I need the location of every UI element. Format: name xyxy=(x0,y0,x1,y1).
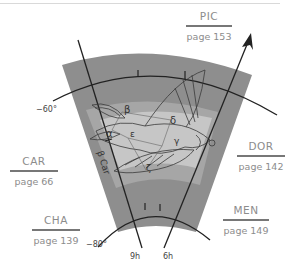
label-men-abbr: MEN xyxy=(221,204,271,219)
declination-label-60: −60° xyxy=(36,105,57,114)
label-pic-abbr: PIC xyxy=(184,10,234,25)
declination-label-80: −80° xyxy=(86,240,107,249)
star-epsilon: ε xyxy=(130,129,135,139)
label-dor-abbr: DOR xyxy=(236,140,286,155)
star-beta: β xyxy=(124,104,130,115)
ra-label-6h: 6h xyxy=(163,252,173,261)
label-car-abbr: CAR xyxy=(8,155,60,170)
label-men-page: page 149 xyxy=(221,221,271,236)
ra-label-9h: 9h xyxy=(130,252,140,261)
label-dor[interactable]: DOR page 142 xyxy=(236,140,286,172)
arrow-head-icon xyxy=(242,33,253,50)
label-car[interactable]: CAR page 66 xyxy=(8,155,60,187)
star-delta: δ xyxy=(170,115,176,126)
star-alpha: α xyxy=(106,128,113,139)
inner-region xyxy=(100,111,212,170)
label-pic-page: page 153 xyxy=(184,27,234,42)
label-pic[interactable]: PIC page 153 xyxy=(184,10,234,42)
star-zeta: ζ xyxy=(146,163,151,173)
label-cha-page: page 139 xyxy=(30,231,82,246)
label-cha-abbr: CHA xyxy=(30,214,82,229)
label-dor-page: page 142 xyxy=(236,157,286,172)
label-car-page: page 66 xyxy=(8,172,60,187)
label-men[interactable]: MEN page 149 xyxy=(221,204,271,236)
label-cha[interactable]: CHA page 139 xyxy=(30,214,82,246)
star-gamma: γ xyxy=(174,136,180,146)
